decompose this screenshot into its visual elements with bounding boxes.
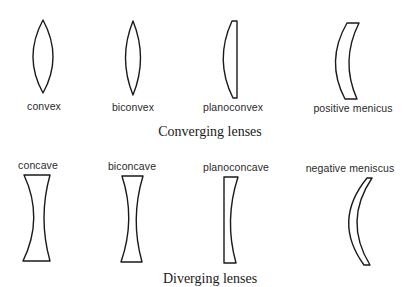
label-planoconvex: planoconvex: [203, 101, 263, 113]
biconcave-lens-shape: [121, 176, 143, 262]
label-biconcave: biconcave: [108, 160, 156, 172]
convex-lens-shape: [33, 20, 53, 93]
negative-meniscus-lens-shape: [349, 178, 372, 265]
positive-meniscus-lens-shape: [335, 23, 359, 99]
planoconcave-lens-shape: [224, 177, 238, 263]
label-planoconcave: planoconcave: [203, 161, 269, 173]
label-negative-meniscus: negative meniscus: [306, 162, 395, 174]
caption-diverging: Diverging lenses: [163, 271, 257, 287]
caption-converging: Converging lenses: [158, 124, 262, 140]
concave-lens-shape: [23, 175, 50, 261]
label-concave: concave: [18, 159, 58, 171]
planoconvex-lens-shape: [223, 21, 237, 98]
biconvex-lens-shape: [126, 21, 141, 95]
label-positive-meniscus: positive menicus: [313, 102, 392, 114]
label-convex: convex: [27, 100, 61, 112]
label-biconvex: biconvex: [112, 101, 154, 113]
